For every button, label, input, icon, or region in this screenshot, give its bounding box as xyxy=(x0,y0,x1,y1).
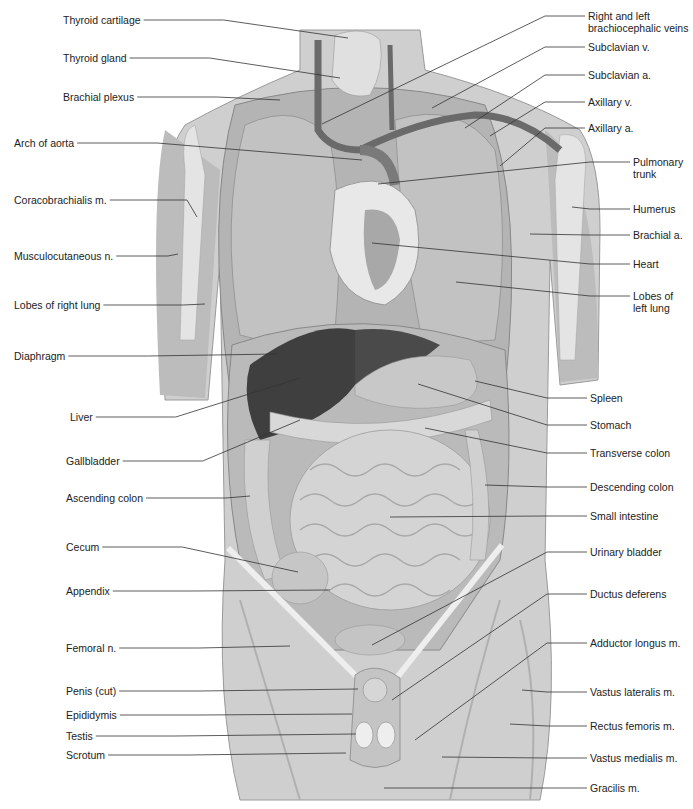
label-text: Subclavian v. xyxy=(588,41,650,53)
label-testis: Testis xyxy=(66,730,93,742)
label-cecum: Cecum xyxy=(66,541,99,553)
label-text: Subclavian a. xyxy=(588,69,651,81)
label-text: Testis xyxy=(66,730,93,742)
label-text: Axillary v. xyxy=(588,96,632,108)
label-brachial-a: Brachial a. xyxy=(633,229,683,241)
label-vastus-medialis: Vastus medialis m. xyxy=(590,752,677,764)
label-text: Diaphragm xyxy=(14,350,65,362)
label-text: Transverse colon xyxy=(590,447,670,459)
label-axillary-a: Axillary a. xyxy=(588,122,634,134)
label-coracobrachialis: Coracobrachialis m. xyxy=(14,194,107,206)
label-text: Brachial plexus xyxy=(63,91,134,103)
label-pulmonary-trunk: Pulmonarytrunk xyxy=(633,156,683,180)
label-stomach: Stomach xyxy=(590,419,631,431)
label-musculocutaneous: Musculocutaneous n. xyxy=(14,250,113,262)
thyroid xyxy=(332,31,381,96)
label-thyroid-gland: Thyroid gland xyxy=(63,52,127,64)
anatomy-figure: Thyroid cartilageThyroid glandBrachial p… xyxy=(0,0,693,809)
label-text: Lobes of right lung xyxy=(14,299,100,311)
label-text-line2: brachiocephalic veins xyxy=(588,22,688,34)
label-rectus-femoris: Rectus femoris m. xyxy=(590,720,675,732)
urinary-bladder xyxy=(335,625,405,655)
label-epididymis: Epididymis xyxy=(66,709,117,721)
label-text: Coracobrachialis m. xyxy=(14,194,107,206)
label-brachial-plexus: Brachial plexus xyxy=(63,91,134,103)
label-gracilis: Gracilis m. xyxy=(590,782,640,794)
label-text: Thyroid gland xyxy=(63,52,127,64)
label-text-line2: left lung xyxy=(633,302,673,314)
label-text: Femoral n. xyxy=(66,642,116,654)
label-text: Rectus femoris m. xyxy=(590,720,675,732)
label-text: Stomach xyxy=(590,419,631,431)
label-text: Humerus xyxy=(633,203,676,215)
label-text: Ductus deferens xyxy=(590,588,666,600)
label-text: Adductor longus m. xyxy=(590,637,680,649)
label-humerus: Humerus xyxy=(633,203,676,215)
label-arch-of-aorta: Arch of aorta xyxy=(14,137,74,149)
label-text: Lobes of xyxy=(633,290,673,302)
label-text: Brachial a. xyxy=(633,229,683,241)
label-text: Descending colon xyxy=(590,481,673,493)
label-text: Small intestine xyxy=(590,510,658,522)
label-text: Liver xyxy=(70,411,93,423)
label-femoral-n: Femoral n. xyxy=(66,642,116,654)
label-diaphragm: Diaphragm xyxy=(14,350,65,362)
label-text: Vastus medialis m. xyxy=(590,752,677,764)
label-vastus-lateralis: Vastus lateralis m. xyxy=(590,686,675,698)
label-text: Spleen xyxy=(590,392,623,404)
label-spleen: Spleen xyxy=(590,392,623,404)
label-subclavian-a: Subclavian a. xyxy=(588,69,651,81)
label-thyroid-cartilage: Thyroid cartilage xyxy=(63,14,141,26)
label-text-line2: trunk xyxy=(633,168,683,180)
label-descending-colon: Descending colon xyxy=(590,481,673,493)
label-urinary-bladder: Urinary bladder xyxy=(590,546,662,558)
label-appendix: Appendix xyxy=(66,585,110,597)
label-text: Thyroid cartilage xyxy=(63,14,141,26)
label-ductus-deferens: Ductus deferens xyxy=(590,588,666,600)
label-transverse-colon: Transverse colon xyxy=(590,447,670,459)
label-text: Epididymis xyxy=(66,709,117,721)
label-text: Cecum xyxy=(66,541,99,553)
label-liver: Liver xyxy=(70,411,93,423)
label-text: Scrotum xyxy=(66,749,105,761)
label-text: Gallbladder xyxy=(66,455,120,467)
label-adductor-longus: Adductor longus m. xyxy=(590,637,680,649)
label-text: Axillary a. xyxy=(588,122,634,134)
right-lung xyxy=(231,115,339,341)
label-text: Musculocutaneous n. xyxy=(14,250,113,262)
label-axillary-v: Axillary v. xyxy=(588,96,632,108)
label-text: Pulmonary xyxy=(633,156,683,168)
label-text: Vastus lateralis m. xyxy=(590,686,675,698)
label-subclavian-v: Subclavian v. xyxy=(588,41,650,53)
label-text: Heart xyxy=(633,258,659,270)
label-scrotum: Scrotum xyxy=(66,749,105,761)
label-brachiocephalic-veins: Right and leftbrachiocephalic veins xyxy=(588,10,688,34)
label-gallbladder: Gallbladder xyxy=(66,455,120,467)
label-penis-cut: Penis (cut) xyxy=(66,685,116,697)
label-text: Gracilis m. xyxy=(590,782,640,794)
label-lobes-right-lung: Lobes of right lung xyxy=(14,299,100,311)
label-small-intestine: Small intestine xyxy=(590,510,658,522)
label-text: Ascending colon xyxy=(66,492,143,504)
label-heart: Heart xyxy=(633,258,659,270)
label-ascending-colon: Ascending colon xyxy=(66,492,143,504)
label-text: Right and left xyxy=(588,10,688,22)
label-text: Appendix xyxy=(66,585,110,597)
label-lobes-left-lung: Lobes ofleft lung xyxy=(633,290,673,314)
label-text: Penis (cut) xyxy=(66,685,116,697)
label-text: Arch of aorta xyxy=(14,137,74,149)
label-text: Urinary bladder xyxy=(590,546,662,558)
